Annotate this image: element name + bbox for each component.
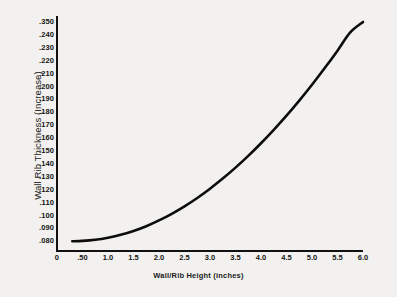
x-axis-line: [56, 250, 363, 252]
y-tick-label: .140: [24, 160, 54, 168]
y-tick-label: .090: [24, 224, 54, 232]
series-line-wall-rib-thickness: [72, 22, 363, 241]
y-tick-label: .210: [24, 70, 54, 78]
y-tick-label: .230: [24, 44, 54, 52]
y-tick-label: .190: [24, 95, 54, 103]
y-tick-label: .150: [24, 147, 54, 155]
y-tick-label: .200: [24, 83, 54, 91]
chart-figure: Wall Rib Thickness (Increase) .350.240.2…: [0, 0, 397, 297]
y-tick-label: .120: [24, 186, 54, 194]
x-tick-label: 6.0: [348, 253, 378, 262]
y-tick-label: .170: [24, 121, 54, 129]
x-axis-title: Wall/Rib Height (inches): [0, 271, 397, 280]
y-axis-line: [56, 16, 58, 252]
y-tick-label: .160: [24, 134, 54, 142]
y-tick-label: .110: [24, 199, 54, 207]
y-tick-label: .220: [24, 57, 54, 65]
y-tick-label: .350: [24, 18, 54, 26]
y-tick-label: .080: [24, 237, 54, 245]
y-tick-label: .240: [24, 31, 54, 39]
y-tick-label: .130: [24, 173, 54, 181]
x-axis-tick-labels: 0.501.01.52.02.53.03.54.04.55.05.56.0: [0, 253, 397, 265]
y-tick-label: .180: [24, 108, 54, 116]
y-tick-label: .100: [24, 212, 54, 220]
